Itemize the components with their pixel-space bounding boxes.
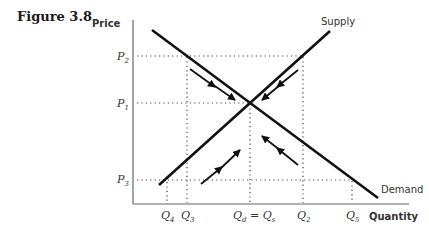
quantity-label-q2: Q2 bbox=[297, 209, 311, 224]
demand-curve bbox=[152, 30, 378, 198]
quantity-label-q4: Q4 bbox=[161, 209, 175, 224]
supply-demand-diagram: Price Quantity Supply Demand P2 P1 P3 Q4… bbox=[0, 0, 429, 226]
quantity-label-qd-qs: Qd = Qs bbox=[233, 209, 276, 224]
price-label-p2: P2 bbox=[116, 50, 129, 65]
price-label-p3: P3 bbox=[116, 173, 129, 188]
price-label-p1: P1 bbox=[116, 97, 129, 112]
quantity-label-q5: Q5 bbox=[346, 209, 360, 224]
supply-label: Supply bbox=[321, 16, 355, 27]
quantity-label-q3: Q3 bbox=[181, 209, 195, 224]
x-axis-label: Quantity bbox=[369, 211, 418, 222]
guide-lines bbox=[137, 56, 352, 203]
y-axis-label: Price bbox=[92, 18, 121, 29]
demand-label: Demand bbox=[381, 184, 423, 195]
